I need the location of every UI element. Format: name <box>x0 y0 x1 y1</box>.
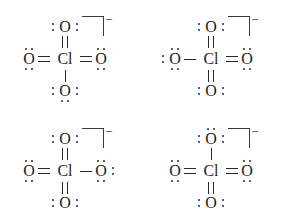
atom-label-right: O <box>241 46 253 72</box>
resonance-structure-1: OOOOCl– <box>0 0 145 111</box>
lone-pair-left <box>52 199 54 207</box>
lone-pair-right <box>222 87 224 95</box>
atom-label-left: O <box>169 158 181 184</box>
lone-pair-left <box>162 55 164 63</box>
atom-chlorine-center: Cl <box>194 158 228 184</box>
atom-oxygen-top: O <box>48 14 82 40</box>
resonance-structure-2: OOOOCl– <box>146 0 291 111</box>
negative-charge-label: – <box>106 12 112 24</box>
resonance-structure-3: OOOOCl– <box>0 112 145 223</box>
atom-label-center: Cl <box>203 46 218 72</box>
atom-oxygen-bottom: O <box>194 78 228 104</box>
lone-pair-left <box>52 87 54 95</box>
atom-oxygen-right: O <box>230 46 264 72</box>
atom-oxygen-top: O <box>194 126 228 152</box>
negative-charge-label: – <box>252 12 258 24</box>
atom-label-top: O <box>59 14 71 40</box>
atom-oxygen-bottom: O <box>48 78 82 104</box>
atom-label-bottom: O <box>205 78 217 104</box>
lone-pair-right <box>76 135 78 143</box>
atom-label-center: Cl <box>203 158 218 184</box>
atom-oxygen-left: O <box>12 46 46 72</box>
molecule-diagram: OOOOCl– <box>6 124 124 218</box>
lone-pair-right <box>222 199 224 207</box>
atom-label-center: Cl <box>57 158 72 184</box>
charge-bracket: – <box>228 16 260 38</box>
atom-label-left: O <box>23 46 35 72</box>
lone-pair-right <box>222 135 224 143</box>
atom-oxygen-right: O <box>84 158 118 184</box>
atom-chlorine-center: Cl <box>48 158 82 184</box>
lone-pair-left <box>198 87 200 95</box>
atom-oxygen-bottom: O <box>194 190 228 216</box>
bracket-top-bar <box>82 128 104 129</box>
atom-label-center: Cl <box>57 46 72 72</box>
negative-charge-label: – <box>106 124 112 136</box>
resonance-structure-grid: OOOOCl–OOOOCl–OOOOCl–OOOOCl– <box>0 0 291 223</box>
molecule-diagram: OOOOCl– <box>6 12 124 106</box>
atom-oxygen-left: O <box>158 158 192 184</box>
atom-oxygen-left: O <box>158 46 192 72</box>
atom-label-right: O <box>95 46 107 72</box>
molecule-diagram: OOOOCl– <box>152 124 270 218</box>
charge-bracket: – <box>82 128 114 150</box>
atom-label-top: O <box>205 126 217 152</box>
atom-oxygen-left: O <box>12 158 46 184</box>
lone-pair-right <box>76 87 78 95</box>
atom-chlorine-center: Cl <box>48 46 82 72</box>
bracket-right-bar <box>249 128 250 148</box>
atom-oxygen-top: O <box>48 126 82 152</box>
atom-label-bottom: O <box>59 190 71 216</box>
atom-label-bottom: O <box>205 190 217 216</box>
bracket-top-bar <box>228 128 250 129</box>
atom-label-top: O <box>205 14 217 40</box>
charge-bracket: – <box>228 128 260 150</box>
lone-pair-left <box>198 135 200 143</box>
resonance-structure-4: OOOOCl– <box>146 112 291 223</box>
charge-bracket: – <box>82 16 114 38</box>
bracket-right-bar <box>103 16 104 36</box>
bracket-top-bar <box>82 16 104 17</box>
lone-pair-right <box>222 23 224 31</box>
lone-pair-right <box>76 199 78 207</box>
bracket-right-bar <box>249 16 250 36</box>
atom-label-left: O <box>169 46 181 72</box>
lone-pair-left <box>52 23 54 31</box>
lone-pair-right <box>112 167 114 175</box>
atom-label-left: O <box>23 158 35 184</box>
lone-pair-left <box>52 135 54 143</box>
lone-pair-left <box>198 199 200 207</box>
bracket-right-bar <box>103 128 104 148</box>
molecule-diagram: OOOOCl– <box>152 12 270 106</box>
atom-label-top: O <box>59 126 71 152</box>
negative-charge-label: – <box>252 124 258 136</box>
atom-oxygen-bottom: O <box>48 190 82 216</box>
atom-oxygen-right: O <box>230 158 264 184</box>
lone-pair-right <box>76 23 78 31</box>
atom-oxygen-top: O <box>194 14 228 40</box>
atom-label-right: O <box>241 158 253 184</box>
atom-label-bottom: O <box>59 78 71 104</box>
atom-label-right: O <box>95 158 107 184</box>
bracket-top-bar <box>228 16 250 17</box>
lone-pair-left <box>198 23 200 31</box>
atom-oxygen-right: O <box>84 46 118 72</box>
atom-chlorine-center: Cl <box>194 46 228 72</box>
